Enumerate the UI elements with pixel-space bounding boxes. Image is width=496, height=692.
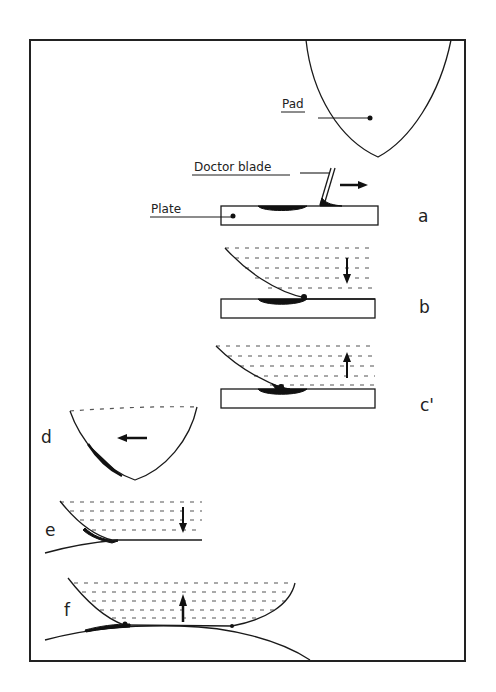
panel-d: d (41, 407, 197, 480)
panel-label-e: e (45, 520, 55, 540)
ink-recess-a (258, 206, 307, 211)
panel-f: f (45, 578, 310, 660)
panel-label-c: c' (420, 395, 434, 415)
panel-a: Doctor blade Plate a (150, 160, 428, 226)
substrate-curve-f (45, 626, 310, 660)
arrow-left-icon (117, 434, 147, 442)
pad-shape-top (306, 40, 451, 157)
doctor-blade (320, 168, 342, 206)
pad-compressed-b (225, 248, 375, 298)
figure-frame (30, 40, 465, 661)
panel-e: e (45, 501, 202, 553)
pad-callout-dot (368, 116, 373, 121)
panel-label-f: f (64, 600, 71, 620)
panel-c: c' (216, 346, 434, 415)
panel-b: b (221, 248, 430, 318)
arrow-right-icon (340, 181, 368, 189)
pad-label: Pad (282, 97, 304, 111)
pad-callout: Pad (281, 97, 373, 121)
pad-printing-diagram: Pad Doctor blade Plate a (0, 0, 496, 692)
arrow-down-icon (343, 258, 351, 284)
plate-label: Plate (151, 202, 181, 216)
doctor-blade-label: Doctor blade (194, 160, 271, 174)
panel-label-b: b (419, 297, 430, 317)
panel-label-a: a (418, 206, 428, 226)
panel-label-d: d (41, 427, 52, 447)
